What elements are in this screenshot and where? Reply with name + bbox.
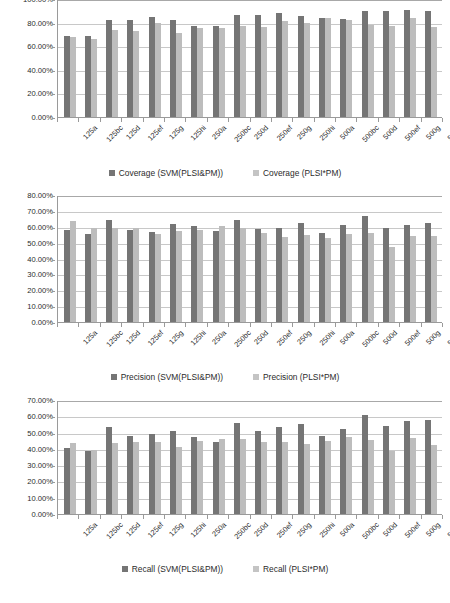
y-tick-mark [52, 291, 55, 292]
bar-group [400, 0, 421, 117]
x-tick-label: 125hi [190, 124, 208, 142]
bar-series-2 [282, 442, 288, 514]
plot-area-recall: 0.00%10.00%20.00%30.00%40.00%50.00%60.00… [0, 401, 450, 515]
x-tick-label: 250a [210, 329, 227, 346]
y-tick-label: 60.00% [27, 43, 53, 51]
bar-series-2 [389, 451, 395, 515]
bar-group [293, 401, 314, 514]
y-tick-label: 20.00% [27, 90, 53, 98]
bar-series-2 [112, 30, 118, 117]
y-tick-mark [52, 228, 55, 229]
x-tick-label: 125bc [105, 329, 125, 349]
bar-series-2 [368, 25, 374, 117]
plot-coverage [57, 0, 442, 118]
bar-group [400, 196, 421, 322]
y-tick-label: 80.00% [27, 192, 53, 200]
x-tick-label: 125g [168, 124, 185, 141]
bar-group [400, 401, 421, 514]
bar-series-2 [112, 443, 118, 514]
bar-series-2 [176, 447, 182, 514]
bar-series-2 [304, 235, 310, 322]
x-tick-label: 500g [424, 521, 441, 538]
x-tick-label: 250g [296, 124, 313, 141]
x-tick-label: 250d [253, 124, 270, 141]
y-tick-mark [52, 466, 55, 467]
y-tick-label: 60.00% [27, 413, 53, 421]
legend-item: Coverage (SVM(PLSI&PM)) [109, 168, 223, 178]
x-tick-label: 125a [82, 521, 99, 538]
y-tick-label: 50.00% [27, 240, 53, 248]
y-tick-label: 40.00% [27, 256, 53, 264]
bar-group [123, 401, 144, 514]
x-tick-label: 250ef [275, 124, 294, 143]
bar-group [59, 0, 80, 117]
x-tick-label: 250bc [233, 521, 253, 541]
x-tick-label: 125d [125, 329, 142, 346]
bar-group [421, 196, 442, 322]
y-tick-mark [52, 71, 55, 72]
bar-group [229, 0, 250, 117]
legend-item: Precision (SVM(PLSI&PM)) [111, 372, 223, 382]
x-axis-labels-coverage: 125a125bc125d125ef125g125hi250a250bc250d… [57, 122, 442, 160]
bar-series-2 [389, 26, 395, 117]
bar-series-2 [410, 18, 416, 117]
bar-group [102, 0, 123, 117]
bars-coverage [59, 0, 442, 117]
bar-series-2 [261, 233, 267, 322]
y-tick-mark [52, 515, 55, 516]
y-tick-label: 100.00% [23, 0, 53, 4]
legend-label: Recall (SVM(PLSI&PM)) [132, 564, 223, 574]
bar-group [187, 0, 208, 117]
y-tick-label: 50.00% [27, 430, 53, 438]
bar-group [272, 0, 293, 117]
bar-series-2 [91, 228, 97, 322]
plot-area-coverage: 0.00%20.00%40.00%60.00%80.00%100.00% [0, 0, 450, 118]
y-tick-mark [52, 260, 55, 261]
legend-swatch-icon [109, 170, 115, 176]
bar-series-2 [410, 438, 416, 514]
x-tick-label: 500hi [446, 329, 450, 347]
y-tick-label: 10.00% [27, 495, 53, 503]
bar-series-2 [389, 247, 395, 322]
bar-group [314, 401, 335, 514]
bar-series-2 [155, 234, 161, 322]
legend-label: Coverage (PLSI*PM) [263, 168, 341, 178]
x-tick-mark [442, 515, 443, 519]
x-tick-label: 250hi [318, 124, 336, 142]
plot-precision [57, 196, 442, 323]
bars-precision [59, 196, 442, 322]
y-tick-mark [52, 196, 55, 197]
x-tick-label: 250a [210, 124, 227, 141]
bar-group [208, 196, 229, 322]
y-tick-label: 40.00% [27, 446, 53, 454]
bar-group [272, 401, 293, 514]
x-tick-label: 500ef [404, 329, 423, 348]
bar-group [144, 196, 165, 322]
bar-group [123, 0, 144, 117]
x-tick-label: 250ef [275, 521, 294, 540]
legend-swatch-icon [253, 170, 259, 176]
bar-series-2 [70, 37, 76, 117]
x-tick-label: 250bc [233, 124, 253, 144]
bar-group [421, 401, 442, 514]
legend-label: Precision (PLSI*PM) [263, 372, 339, 382]
plot-recall [57, 401, 442, 515]
bar-group [59, 401, 80, 514]
bar-group [272, 196, 293, 322]
y-tick-label: 10.00% [27, 303, 53, 311]
bar-group [144, 0, 165, 117]
bar-group [378, 401, 399, 514]
bar-series-2 [133, 31, 139, 117]
x-tick-label: 500a [339, 124, 356, 141]
y-tick-mark [52, 244, 55, 245]
x-tick-label: 500d [382, 521, 399, 538]
bar-group [229, 196, 250, 322]
legend-precision: Precision (SVM(PLSI&PM))Precision (PLSI*… [0, 372, 450, 382]
bar-series-2 [431, 445, 437, 514]
bar-group [208, 401, 229, 514]
bar-group [102, 401, 123, 514]
x-tick-label: 250g [296, 329, 313, 346]
bar-series-2 [325, 238, 331, 322]
bar-group [123, 196, 144, 322]
x-tick-label: 500hi [446, 124, 450, 142]
